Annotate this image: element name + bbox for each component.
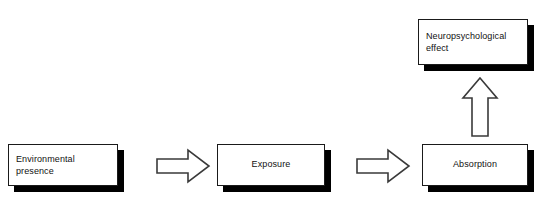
node-label-neuropsychological-effect: Neuropsychological effect bbox=[419, 31, 527, 54]
node-label-line-1: Exposure bbox=[218, 159, 324, 171]
arrow-up-block-icon bbox=[460, 76, 500, 138]
node-exposure[interactable]: Exposure bbox=[217, 144, 325, 186]
node-label-exposure: Exposure bbox=[218, 159, 324, 171]
node-environmental-presence[interactable]: Environmental presence bbox=[8, 144, 118, 186]
node-label-line-1: Absorption bbox=[423, 159, 527, 171]
node-absorption[interactable]: Absorption bbox=[422, 144, 528, 186]
arrow-right-block-icon bbox=[355, 148, 411, 184]
node-label-environmental-presence: Environmental presence bbox=[9, 154, 117, 177]
node-neuropsychological-effect[interactable]: Neuropsychological effect bbox=[418, 19, 528, 65]
node-label-line-2: effect bbox=[426, 42, 527, 54]
node-label-line-1: Neuropsychological bbox=[426, 31, 527, 43]
flowchart-diagram: Neuropsychological effect Environmental … bbox=[0, 0, 541, 200]
node-label-line-1: Environmental bbox=[16, 154, 117, 166]
node-label-line-2: presence bbox=[16, 165, 117, 177]
node-label-absorption: Absorption bbox=[423, 159, 527, 171]
arrow-right-block-icon bbox=[155, 148, 211, 184]
